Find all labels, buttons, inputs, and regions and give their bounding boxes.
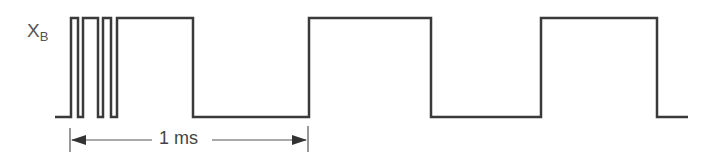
- xb-waveform: [55, 18, 688, 117]
- waveform-svg: [0, 0, 719, 156]
- signal-name: X: [27, 20, 40, 41]
- signal-subscript: B: [40, 29, 49, 44]
- arrowhead-right-icon: [292, 135, 307, 145]
- signal-label: XB: [27, 20, 48, 44]
- arrowhead-left-icon: [71, 135, 86, 145]
- dimension-label: 1 ms: [155, 128, 202, 149]
